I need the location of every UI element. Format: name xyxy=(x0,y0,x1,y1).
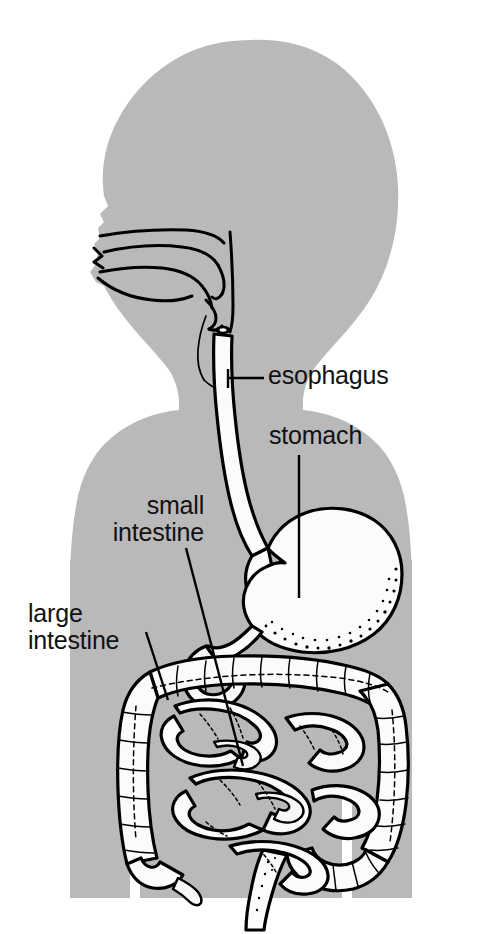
label-stomach: stomach xyxy=(269,422,362,449)
label-small-intestine-line2: intestine xyxy=(113,518,204,546)
larynx-lumen xyxy=(220,328,227,331)
label-esophagus: esophagus xyxy=(268,362,389,389)
digestive-system-figure: esophagus stomach smallintestine largein… xyxy=(0,0,483,934)
anatomy-illustration xyxy=(0,0,483,934)
label-large-intestine-line2: intestine xyxy=(28,626,119,654)
label-large-intestine-line1: large xyxy=(28,599,83,627)
label-small-intestine-line1: small xyxy=(147,491,204,519)
label-large-intestine: largeintestine xyxy=(28,600,180,654)
label-small-intestine: smallintestine xyxy=(52,492,204,546)
